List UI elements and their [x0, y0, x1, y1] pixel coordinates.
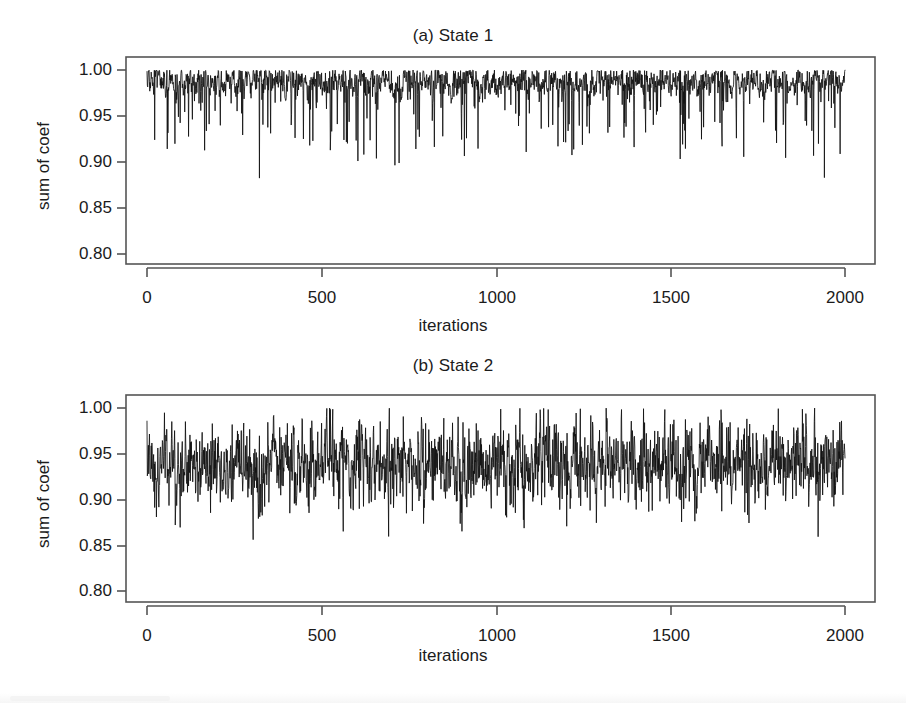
trace-line [147, 70, 845, 178]
panel-a-ytick-2: 0.95 [54, 106, 112, 126]
panel-b-xtick-2: 500 [287, 626, 357, 646]
panel-a-xtick-5: 2000 [810, 288, 880, 308]
panel-a-xaxis-label: iterations [0, 316, 906, 336]
panel-a-ytick-5: 0.80 [54, 244, 112, 264]
panel-b-ytick-3: 0.90 [54, 490, 112, 510]
panel-a-xtick-2: 500 [287, 288, 357, 308]
panel-b-xtick-5: 2000 [810, 626, 880, 646]
panel-a-xtick-1: 0 [112, 288, 182, 308]
panel-a-yaxis-label: sum of coef [34, 122, 54, 210]
panel-state-2: (b) State 2 1.00 0.95 0.90 0.85 0.80 0 5… [0, 350, 906, 703]
panel-a-xtick-3: 1000 [462, 288, 532, 308]
panel-b-xtick-3: 1000 [462, 626, 532, 646]
scan-artifact [10, 696, 170, 701]
panel-b-ytick-4: 0.85 [54, 536, 112, 556]
panel-b-ytick-5: 0.80 [54, 581, 112, 601]
panel-state-1: (a) State 1 1.00 0.95 0.90 0.85 0.80 0 5… [0, 0, 906, 350]
panel-b-ytick-2: 0.95 [54, 444, 112, 464]
panel-a-ytick-3: 0.90 [54, 152, 112, 172]
panel-a-xtick-4: 1500 [636, 288, 706, 308]
panel-b-ytick-1: 1.00 [54, 398, 112, 418]
panel-b-xtick-4: 1500 [636, 626, 706, 646]
panel-a-ytick-4: 0.85 [54, 198, 112, 218]
panel-b-xaxis-label: iterations [0, 646, 906, 666]
panel-a-ytick-1: 1.00 [54, 60, 112, 80]
figure-trace-plots: (a) State 1 1.00 0.95 0.90 0.85 0.80 0 5… [0, 0, 906, 703]
trace-line [147, 408, 845, 540]
panel-b-xtick-1: 0 [112, 626, 182, 646]
panel-b-yaxis-label: sum of coef [34, 460, 54, 548]
